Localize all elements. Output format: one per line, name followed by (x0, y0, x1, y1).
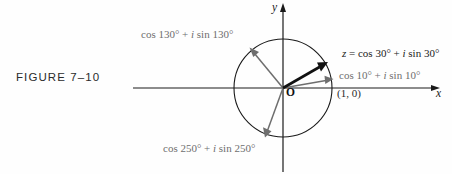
label-point-1-0: (1, 0) (337, 88, 361, 99)
vector-130 (250, 48, 284, 89)
label-cos130: cos 130° + i sin 130° (141, 29, 233, 40)
vector-250 (263, 88, 283, 138)
y-axis-arrowhead (280, 3, 286, 12)
label-axis-y: y (272, 2, 277, 14)
label-cos250: cos 250° + i sin 250° (163, 143, 255, 154)
vector-250-arrowhead (263, 127, 272, 137)
label-origin: O (286, 87, 295, 99)
label-axis-x: x (436, 88, 441, 100)
label-z-cos30: z = cos 30° + i sin 30° (342, 48, 439, 59)
label-cos10: cos 10° + i sin 10° (339, 70, 420, 81)
figure-container: FIGURE 7–10 (0, 0, 452, 174)
